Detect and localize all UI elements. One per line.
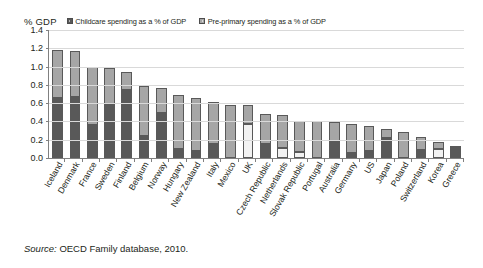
gridline: [49, 30, 464, 31]
legend-label: Childcare spending as a % of GDP: [75, 17, 186, 26]
source-note: Source: OECD Family database, 2010.: [24, 243, 188, 254]
x-axis-label-slot: Greece: [447, 160, 464, 230]
x-axis-label-slot: Slovak Republic: [291, 160, 308, 230]
legend-item-pre-primary: Pre-primary spending as a % of GDP: [199, 17, 326, 26]
y-axis-tick-mark: [46, 85, 50, 86]
y-axis-tick-mark: [46, 67, 50, 68]
y-axis-tick-mark: [46, 48, 50, 49]
x-axis-category-label-text: UK: [240, 160, 255, 175]
legend-item-childcare: Childcare spending as a % of GDP: [67, 17, 187, 26]
y-axis-tick-label: 1.4: [30, 25, 43, 35]
bar-segment-pre-primary: [70, 51, 81, 97]
bar-segment-pre-primary: [381, 129, 392, 138]
plot-canvas: [48, 30, 464, 158]
chart-legend: Childcare spending as a % of GDPPre-prim…: [67, 17, 326, 26]
gridline: [49, 121, 464, 122]
y-axis-tick-label: 0.2: [30, 135, 43, 145]
y-axis-tick-mark: [46, 121, 50, 122]
x-axis-category-labels: IcelandDenmarkFranceSwedenFinlandBelgium…: [48, 160, 464, 230]
legend-swatch-icon: [67, 18, 73, 24]
bar-segment-pre-primary: [104, 68, 115, 105]
y-axis-tick-label: 1.2: [30, 43, 43, 53]
x-axis-label-slot: Korea: [429, 160, 446, 230]
gridline: [49, 103, 464, 104]
y-axis-tick-label: 0.8: [30, 80, 43, 90]
x-axis-label-slot: Finland: [117, 160, 134, 230]
legend-swatch-icon: [199, 18, 205, 24]
figure-childcare-preprimary-spending: % GDP Childcare spending as a % of GDPPr…: [0, 0, 483, 268]
x-axis-label-slot: Germany: [343, 160, 360, 230]
x-axis-category-label-text: Italy: [204, 160, 221, 179]
x-axis-label-slot: US: [360, 160, 377, 230]
bar-segment-pre-primary: [121, 72, 132, 90]
x-axis-label-slot: Japan: [377, 160, 394, 230]
x-axis-label-slot: Portugal: [308, 160, 325, 230]
x-axis-category-label-text: US: [362, 160, 377, 175]
x-axis-label-slot: Italy: [204, 160, 221, 230]
x-axis-label-slot: Mexico: [221, 160, 238, 230]
y-axis-tick-label: 0.0: [30, 153, 43, 163]
bar-segment-pre-primary: [87, 67, 98, 126]
legend-label: Pre-primary spending as a % of GDP: [208, 17, 326, 26]
gridline: [49, 85, 464, 86]
y-axis-tick-label: 0.6: [30, 98, 43, 108]
bar-segment-pre-primary: [52, 50, 63, 98]
gridline: [49, 48, 464, 49]
y-axis-tick-mark: [46, 103, 50, 104]
x-axis-label-slot: Norway: [152, 160, 169, 230]
y-axis-tick-labels: 1.41.21.00.80.60.40.20.0: [24, 30, 46, 158]
x-axis-label-slot: Sweden: [100, 160, 117, 230]
gridline: [49, 67, 464, 68]
y-axis-tick-label: 0.4: [30, 116, 43, 126]
bar-segment-pre-primary: [156, 88, 167, 114]
source-text: OECD Family database, 2010.: [57, 243, 188, 254]
x-axis-label-slot: France: [83, 160, 100, 230]
x-axis-label-slot: Belgium: [135, 160, 152, 230]
x-axis-label-slot: Denmark: [65, 160, 82, 230]
y-axis-tick-label: 1.0: [30, 62, 43, 72]
y-axis-tick-mark: [46, 140, 50, 141]
bar-segment-pre-primary: [139, 86, 150, 136]
chart-header: % GDP Childcare spending as a % of GDPPr…: [24, 14, 464, 28]
x-axis-label-slot: New Zealand: [187, 160, 204, 230]
y-axis-tick-mark: [46, 30, 50, 31]
x-axis-label-slot: Iceland: [48, 160, 65, 230]
source-prefix: Source:: [24, 243, 57, 254]
x-axis-label-slot: Switzerland: [412, 160, 429, 230]
